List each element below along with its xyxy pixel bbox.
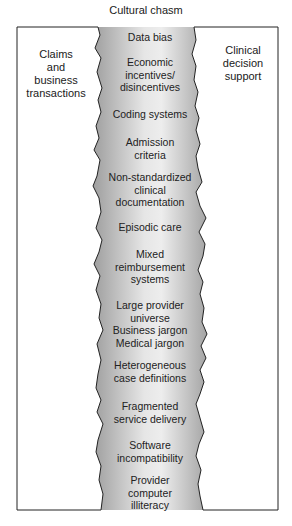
chasm-item: Coding systems bbox=[96, 108, 204, 121]
right-panel-outline bbox=[194, 27, 278, 510]
clinical-decision-panel-label: Clinical decision support bbox=[210, 44, 276, 83]
chasm-item: Mixed reimbursement systems bbox=[96, 248, 204, 286]
chasm-item: Economic incentives/ disincentives bbox=[96, 56, 204, 94]
claims-business-panel-label: Claims and business transactions bbox=[20, 48, 92, 100]
chasm-item: Non-standardized clinical documentation bbox=[96, 171, 204, 209]
chasm-item: Heterogeneous case definitions bbox=[96, 359, 204, 384]
chasm-item: Provider computer illiteracy bbox=[96, 474, 204, 512]
chasm-item: Data bias bbox=[96, 31, 204, 44]
chasm-item: Large provider universe Business jargon … bbox=[96, 299, 204, 349]
chasm-item: Software incompatibility bbox=[96, 439, 204, 464]
chasm-item: Admission criteria bbox=[96, 136, 204, 161]
chasm-item: Episodic care bbox=[96, 221, 204, 234]
chasm-item: Fragmented service delivery bbox=[96, 400, 204, 425]
